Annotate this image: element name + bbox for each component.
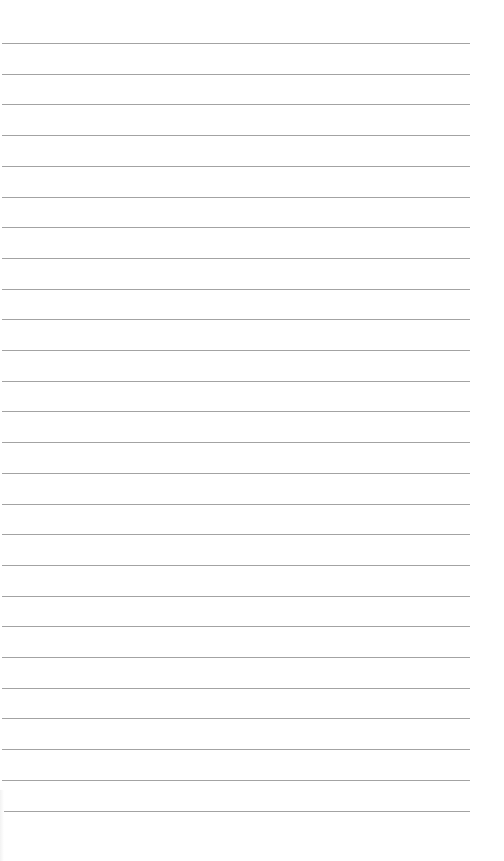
ruled-line [2,197,470,198]
ruled-line [2,166,470,167]
ruled-line [2,811,470,812]
ruled-line [2,289,470,290]
ruled-line [2,688,470,689]
ruled-line [2,381,470,382]
ruled-line [2,104,470,105]
ruled-line [2,258,470,259]
ruled-line [2,565,470,566]
ruled-line [2,411,470,412]
ruled-line [2,43,470,44]
ruled-line [2,319,470,320]
cropped-footer-text [0,856,504,861]
ruled-line [2,74,470,75]
ruled-line [2,626,470,627]
ruled-line [2,350,470,351]
ruled-line [2,442,470,443]
ruled-line [2,135,470,136]
ruled-line [2,534,470,535]
ruled-line [2,227,470,228]
ruled-line [2,780,470,781]
ruled-line [2,504,470,505]
ruled-line [2,749,470,750]
ruled-line [2,657,470,658]
ruled-line [2,473,470,474]
lined-paper-page [0,0,504,861]
page-edge-shadow [0,790,4,861]
ruled-line [2,596,470,597]
ruled-line [2,718,470,719]
